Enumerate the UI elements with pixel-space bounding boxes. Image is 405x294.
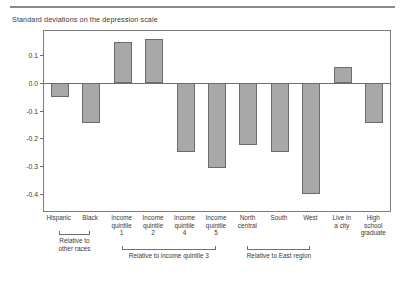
y-axis-tick-label: -0.1 [26,107,38,114]
group-label: Relative toother races [14,237,134,252]
bar [334,67,352,82]
bar [239,83,257,146]
plot-inner: 0.10.0-0.1-0.2-0.3-0.4 [44,31,390,211]
bar [82,83,100,123]
y-axis-tick-label: -0.4 [26,191,38,198]
y-axis-tick [40,138,44,139]
group-label: Relative to income quintile 3 [109,252,229,260]
group-bracket [122,246,216,250]
y-axis-tick [40,55,44,56]
y-axis-tick-label: -0.2 [26,135,38,142]
chart-title: Standard deviations on the depression sc… [12,15,158,24]
x-axis-category-labels: HispanicBlackIncomequintile1Incomequinti… [43,214,391,254]
y-axis-tick [40,166,44,167]
y-axis-tick-label: 0.0 [29,79,38,86]
chart-figure: Standard deviations on the depression sc… [0,0,405,294]
group-bracket [59,231,90,235]
group-label: Relative to East region [219,252,339,260]
y-axis-tick-label: 0.1 [29,51,38,58]
bar [365,83,383,123]
y-axis-tick [40,83,44,84]
bar [145,39,163,82]
x-axis-label: Highschoolgraduate [351,214,395,237]
plot-area: 0.10.0-0.1-0.2-0.3-0.4 [43,30,391,212]
header-rule [10,6,395,8]
bar [271,83,289,153]
y-axis-tick [40,111,44,112]
bar [177,83,195,153]
bar [51,83,69,97]
group-bracket [247,246,310,250]
y-axis-tick [40,194,44,195]
y-axis-tick-label: -0.3 [26,163,38,170]
bar [208,83,226,168]
bar [114,42,132,82]
bar [302,83,320,195]
